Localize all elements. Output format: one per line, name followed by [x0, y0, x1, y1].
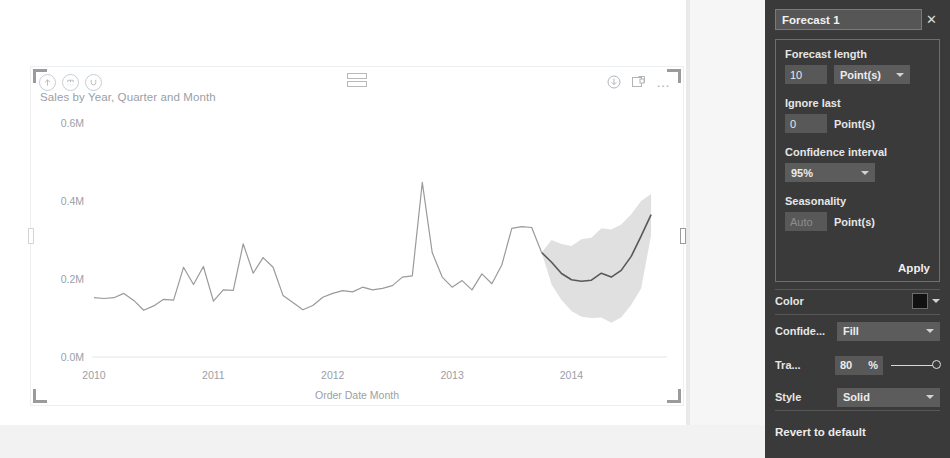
apply-button[interactable]: Apply: [898, 262, 930, 274]
revert-to-default-button[interactable]: Revert to default: [775, 426, 866, 438]
close-icon[interactable]: ✕: [922, 12, 940, 27]
chart-svg: 0.0M0.2M0.4M0.6M20102011201220132014: [31, 109, 683, 405]
panel-divider-color: [775, 314, 940, 315]
y-axis-tick-label: 0.6M: [61, 117, 84, 129]
color-property-row: Color: [775, 288, 940, 314]
transparency-row: Tra... 80 %: [775, 352, 940, 378]
line-style-row: Style Solid: [775, 384, 940, 410]
drill-mode-icon[interactable]: [85, 74, 102, 91]
seasonality-unit-label: Point(s): [834, 216, 875, 228]
seasonality-row: Point(s): [785, 212, 930, 231]
seasonality-label: Seasonality: [785, 195, 930, 207]
line-style-value: Solid: [843, 391, 926, 403]
transparency-slider-knob[interactable]: [932, 360, 941, 369]
panel-titlebar: Forecast 1 ✕: [775, 9, 940, 30]
line-style-select[interactable]: Solid: [837, 388, 940, 407]
ignore-last-unit-label: Point(s): [834, 118, 875, 130]
drill-up-icon[interactable]: [39, 74, 56, 91]
y-axis-tick-label: 0.4M: [61, 195, 84, 207]
confidence-band: [542, 194, 652, 323]
chevron-down-icon: [896, 73, 904, 77]
confidence-band-style-row: Confide... Fill: [775, 318, 940, 344]
screenshot-root: … Sales by Year, Quarter and Month 0.0M0…: [0, 0, 950, 458]
canvas-edge-divider: [686, 0, 690, 458]
apply-row: Apply: [898, 262, 930, 274]
transparency-label: Tra...: [775, 359, 827, 371]
forecast-length-input[interactable]: [785, 65, 827, 84]
chevron-down-icon: [926, 395, 934, 399]
confidence-band-select[interactable]: Fill: [837, 322, 940, 341]
more-options-icon[interactable]: …: [656, 74, 671, 89]
x-axis-tick-label: 2014: [560, 369, 584, 381]
forecast-length-unit-value: Point(s): [840, 69, 896, 81]
transparency-unit: %: [868, 359, 878, 371]
x-axis-tick-label: 2011: [202, 369, 225, 381]
drill-controls: [39, 74, 102, 91]
forecast-name-input[interactable]: Forecast 1: [775, 9, 922, 30]
x-axis-tick-label: 2010: [82, 369, 106, 381]
confidence-interval-select[interactable]: 95%: [785, 163, 875, 182]
focus-mode-icon[interactable]: [631, 74, 646, 89]
confidence-band-label: Confide...: [775, 325, 827, 337]
forecast-analytics-panel: Forecast 1 ✕ Forecast length Point(s) Ig…: [765, 0, 950, 458]
plot-area: 0.0M0.2M0.4M0.6M20102011201220132014 Ord…: [31, 109, 683, 405]
actual-series-line: [94, 182, 542, 310]
ignore-last-label: Ignore last: [785, 97, 930, 109]
resize-handle-top[interactable]: [347, 73, 367, 79]
forecast-length-label: Forecast length: [785, 48, 930, 60]
forecast-length-row: Point(s): [785, 65, 930, 84]
transparency-value: 80: [840, 359, 852, 371]
confidence-interval-value: 95%: [791, 167, 861, 179]
line-style-label: Style: [775, 391, 827, 403]
chevron-down-icon: [861, 171, 869, 175]
visual-header-actions: …: [606, 74, 671, 89]
color-swatch[interactable]: [912, 293, 928, 309]
export-data-icon[interactable]: [606, 74, 621, 89]
line-chart-visual[interactable]: … Sales by Year, Quarter and Month 0.0M0…: [30, 66, 684, 406]
transparency-value-box[interactable]: 80 %: [835, 356, 883, 375]
seasonality-input[interactable]: [785, 212, 827, 231]
y-axis-tick-label: 0.0M: [61, 351, 84, 363]
confidence-interval-row: 95%: [785, 163, 930, 182]
chevron-down-icon: [932, 299, 940, 303]
report-canvas-right-margin: [690, 0, 765, 425]
forecast-settings-group: Forecast length Point(s) Ignore last Poi…: [775, 39, 940, 282]
resize-handle-top-secondary[interactable]: [347, 81, 367, 87]
report-canvas-bottom-margin: [0, 425, 765, 458]
x-axis-title: Order Date Month: [31, 389, 683, 401]
y-axis-tick-label: 0.2M: [61, 273, 84, 285]
panel-divider-bottom: [775, 410, 940, 411]
chevron-down-icon: [926, 329, 934, 333]
x-axis-tick-label: 2012: [321, 369, 345, 381]
confidence-interval-label: Confidence interval: [785, 146, 930, 158]
forecast-length-unit-select[interactable]: Point(s): [834, 65, 910, 84]
confidence-band-value: Fill: [843, 325, 926, 337]
visual-title: Sales by Year, Quarter and Month: [40, 91, 216, 103]
transparency-slider[interactable]: [891, 365, 938, 366]
ignore-last-row: Point(s): [785, 114, 930, 133]
color-property-label: Color: [775, 295, 827, 307]
ignore-last-input[interactable]: [785, 114, 827, 133]
x-axis-tick-label: 2013: [440, 369, 464, 381]
drill-down-expand-icon[interactable]: [62, 74, 79, 91]
color-picker[interactable]: [912, 293, 940, 309]
